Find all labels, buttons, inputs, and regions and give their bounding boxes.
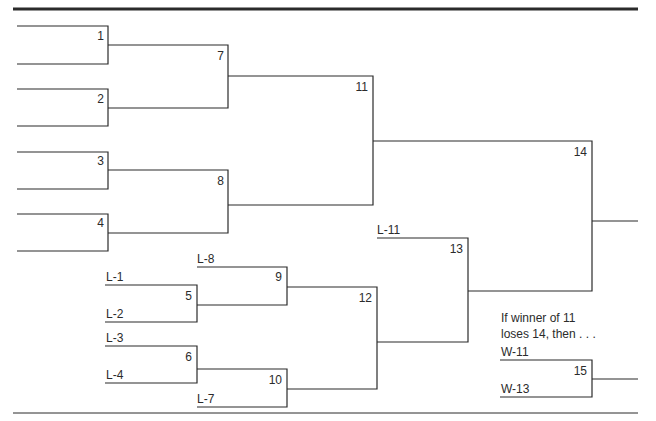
game-number-12: 12 bbox=[350, 291, 372, 305]
entry-w13: W-13 bbox=[501, 382, 529, 396]
game-number-11: 11 bbox=[346, 80, 368, 94]
game-number-8: 8 bbox=[204, 174, 224, 188]
game-number-10: 10 bbox=[262, 373, 282, 387]
game-number-4: 4 bbox=[84, 216, 104, 230]
game-number-3: 3 bbox=[84, 154, 104, 168]
game-14-bracket bbox=[373, 141, 592, 291]
game-11-bracket bbox=[228, 76, 373, 205]
entry-l1: L-1 bbox=[106, 270, 123, 284]
entry-l2: L-2 bbox=[106, 307, 123, 321]
entry-l4: L-4 bbox=[106, 368, 123, 382]
if-necessary-note: If winner of 11 loses 14, then . . . bbox=[501, 310, 596, 342]
game-number-9: 9 bbox=[262, 270, 282, 284]
bracket-diagram: 1 2 3 4 5 6 7 8 9 10 11 12 13 14 15 L-1 … bbox=[0, 0, 656, 421]
game-number-1: 1 bbox=[84, 29, 104, 43]
note-line-2: loses 14, then . . . bbox=[501, 326, 596, 342]
entry-l7: L-7 bbox=[197, 392, 214, 406]
game-number-5: 5 bbox=[172, 289, 192, 303]
entry-l8: L-8 bbox=[197, 252, 214, 266]
entry-l11: L-11 bbox=[377, 223, 400, 237]
bracket-lines bbox=[0, 0, 656, 421]
game-number-6: 6 bbox=[172, 350, 192, 364]
entry-w11: W-11 bbox=[501, 345, 529, 359]
entry-l3: L-3 bbox=[106, 331, 123, 345]
game-number-15: 15 bbox=[565, 364, 587, 378]
game-number-14: 14 bbox=[565, 145, 587, 159]
game-number-7: 7 bbox=[204, 49, 224, 63]
game-number-13: 13 bbox=[441, 242, 463, 256]
game-number-2: 2 bbox=[84, 92, 104, 106]
note-line-1: If winner of 11 bbox=[501, 310, 596, 326]
